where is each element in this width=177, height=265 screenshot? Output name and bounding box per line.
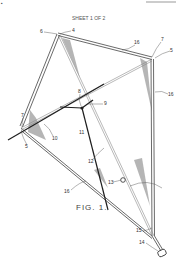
numeral-14: 14: [139, 239, 145, 245]
numeral-4-top: 4: [72, 27, 75, 33]
numeral-12: 12: [88, 158, 94, 164]
leader-lines: [21, 31, 170, 251]
numeral-7-left: 7: [21, 112, 24, 118]
numeral-5-right: 5: [170, 47, 173, 53]
numeral-6-top: 6: [40, 28, 43, 34]
top-right-stamp: [146, 1, 176, 3]
numeral-16-left: 16: [64, 188, 70, 194]
figure-caption: FIG. 1.: [76, 203, 107, 212]
numeral-7-right: 7: [161, 36, 164, 42]
sheet-header: SHEET 1 OF 2: [72, 15, 105, 21]
center-hub: [8, 84, 108, 210]
corner-mark: ▪: [1, 0, 3, 6]
fitting-13: [121, 178, 126, 183]
hub-joint: [80, 106, 83, 109]
patent-drawing: SHEET 1 OF 2 ▪: [0, 0, 177, 265]
numeral-11: 11: [79, 129, 84, 135]
numeral-10: 10: [52, 135, 58, 141]
numeral-9: 9: [104, 100, 107, 106]
numeral-13: 13: [108, 179, 114, 185]
numeral-16-top: 16: [134, 39, 140, 45]
numeral-16-right: 16: [168, 91, 174, 97]
end-cap: [157, 249, 167, 258]
numeral-5-left: 5: [25, 143, 28, 149]
sail-shading: [28, 38, 152, 206]
numeral-8: 8: [78, 88, 81, 94]
numeral-15: 15: [136, 227, 142, 233]
